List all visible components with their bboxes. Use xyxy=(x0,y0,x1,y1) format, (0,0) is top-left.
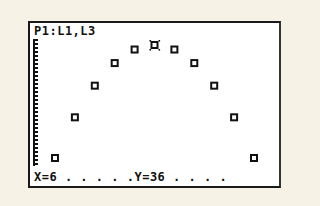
trace-cursor-icon xyxy=(150,40,152,42)
trace-y-value: .Y=36 xyxy=(127,170,166,184)
trace-cursor-icon xyxy=(159,40,161,42)
scatter-plot xyxy=(30,23,279,186)
trace-cursor-icon xyxy=(150,49,152,51)
status-dots: . . . . xyxy=(57,170,127,184)
data-point xyxy=(251,155,257,161)
data-point xyxy=(52,155,58,161)
data-point xyxy=(171,47,177,53)
data-point xyxy=(152,42,158,48)
data-point xyxy=(92,83,98,89)
data-point xyxy=(211,83,217,89)
calculator-graph-screen: P1:L1,L3 X=6 . . . . .Y=36 . . . . xyxy=(28,21,281,188)
trace-x-value: X=6 xyxy=(34,170,57,184)
data-point xyxy=(231,114,237,120)
data-point xyxy=(132,47,138,53)
status-dots: . . . . xyxy=(165,170,227,184)
trace-status: X=6 . . . . .Y=36 . . . . xyxy=(34,171,227,184)
data-point xyxy=(112,60,118,66)
data-point xyxy=(72,114,78,120)
trace-cursor-icon xyxy=(159,49,161,51)
data-point xyxy=(191,60,197,66)
